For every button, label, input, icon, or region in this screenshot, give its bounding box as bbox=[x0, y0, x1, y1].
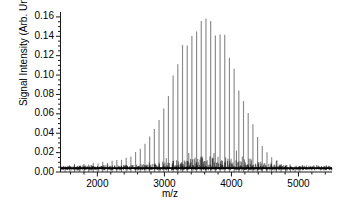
y-tick-label: 0.06 bbox=[20, 107, 54, 118]
comb-peaks-series bbox=[65, 18, 300, 172]
y-tick-label: 0.04 bbox=[20, 127, 54, 138]
axis-lines-and-ticks bbox=[56, 12, 332, 177]
y-tick-label: 0.08 bbox=[20, 88, 54, 99]
y-tick-label: 0.00 bbox=[20, 166, 54, 177]
x-axis-title: m/z bbox=[0, 188, 340, 199]
x-tick-label: 5000 bbox=[276, 178, 320, 189]
x-tick-label: 3000 bbox=[142, 178, 186, 189]
y-tick-label: 0.10 bbox=[20, 69, 54, 80]
y-tick-label: 0.16 bbox=[20, 10, 54, 21]
x-tick-label: 2000 bbox=[75, 178, 119, 189]
x-tick-label: 4000 bbox=[209, 178, 253, 189]
y-tick-label: 0.02 bbox=[20, 146, 54, 157]
y-tick-label: 0.14 bbox=[20, 30, 54, 41]
y-tick-label: 0.12 bbox=[20, 49, 54, 60]
mass-spectrum-figure: Signal Intensity (Arb. Units) m/z 0.000.… bbox=[0, 0, 340, 209]
